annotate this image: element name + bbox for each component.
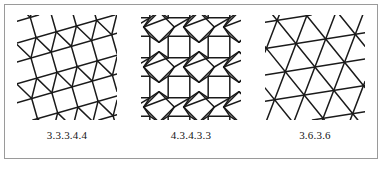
tiling-label-3: 3.6.3.6 [299, 129, 331, 141]
tiling-svg-1 [17, 15, 117, 120]
tiling-diagram-1 [17, 15, 117, 120]
panel-elongated-triangular: 3.3.3.4.4 [13, 5, 121, 141]
tiling-label-2: 4.3.4.3.3 [171, 129, 211, 141]
figure-frame: 3.3.3.4.4 4.3.4.3.3 3.6.3.6 [4, 4, 378, 159]
tiling-svg-2 [141, 15, 241, 120]
panel-snub-square: 4.3.4.3.3 [137, 5, 245, 141]
panel-trihexagonal: 3.6.3.6 [261, 5, 369, 141]
tiling-label-1: 3.3.3.4.4 [47, 129, 87, 141]
tiling-svg-3 [265, 15, 365, 120]
tiling-diagram-3 [265, 15, 365, 120]
tiling-diagram-2 [141, 15, 241, 120]
tiling-panels: 3.3.3.4.4 4.3.4.3.3 3.6.3.6 [5, 5, 377, 158]
